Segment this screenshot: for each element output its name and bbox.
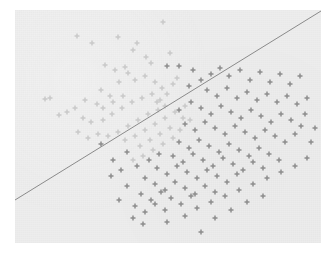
data-point (189, 100, 194, 105)
data-point (149, 61, 154, 66)
data-point (173, 180, 178, 185)
data-point (199, 106, 204, 111)
data-point (239, 116, 244, 121)
data-point (183, 186, 188, 191)
data-point (109, 174, 114, 179)
data-point (213, 126, 218, 131)
data-point (258, 70, 263, 75)
data-point (108, 94, 113, 99)
data-point (183, 214, 188, 219)
data-point (245, 200, 250, 205)
scatter-plot-figure (0, 0, 336, 263)
data-point (160, 86, 165, 91)
data-point (81, 116, 86, 121)
data-point (303, 112, 308, 117)
data-point (183, 104, 188, 109)
data-point (90, 41, 95, 46)
data-point (305, 96, 310, 101)
data-point (187, 84, 192, 89)
data-point (195, 206, 200, 211)
data-point (188, 118, 193, 123)
series-class-b (99, 64, 318, 235)
data-point (257, 146, 262, 151)
data-point (267, 152, 272, 157)
data-point (261, 194, 266, 199)
data-point (165, 64, 170, 69)
data-point (217, 150, 222, 155)
data-point (110, 112, 115, 117)
data-point (150, 92, 155, 97)
data-point (199, 230, 204, 235)
data-point (161, 20, 166, 25)
data-point (158, 132, 163, 137)
data-point (279, 112, 284, 117)
data-point (126, 124, 131, 129)
data-point (171, 154, 176, 159)
data-point (123, 65, 128, 70)
data-point (187, 146, 192, 151)
data-point (149, 198, 154, 203)
plot-area (15, 10, 321, 243)
data-point (229, 208, 234, 213)
data-point (298, 74, 303, 79)
data-point (163, 116, 168, 121)
data-point (293, 132, 298, 137)
data-point (223, 132, 228, 137)
data-point (288, 82, 293, 87)
data-point (165, 92, 170, 97)
data-point (177, 64, 182, 69)
data-point (255, 98, 260, 103)
data-point (231, 162, 236, 167)
data-point (144, 55, 149, 60)
data-point (227, 142, 232, 147)
data-point (289, 118, 294, 123)
data-point (261, 166, 266, 171)
data-point (101, 118, 106, 123)
data-point (191, 152, 196, 157)
data-point (148, 138, 153, 143)
data-point (213, 190, 218, 195)
data-point (251, 182, 256, 187)
data-point (193, 128, 198, 133)
data-point (171, 136, 176, 141)
data-point (268, 80, 273, 85)
data-point (95, 102, 100, 107)
data-point (123, 138, 128, 143)
data-point (215, 174, 220, 179)
data-point (163, 208, 168, 213)
data-point (136, 118, 141, 123)
data-point (143, 128, 148, 133)
data-point (233, 124, 238, 129)
data-point (249, 108, 254, 113)
data-point (125, 184, 130, 189)
data-point (153, 182, 158, 187)
data-point (138, 144, 143, 149)
decision-boundary-layer (15, 11, 321, 200)
data-point (245, 90, 250, 95)
data-point (133, 78, 138, 83)
data-point (201, 158, 206, 163)
data-point (135, 41, 140, 46)
data-point (111, 158, 116, 163)
data-point (133, 134, 138, 139)
data-point (168, 126, 173, 131)
data-point (285, 94, 290, 99)
data-point (253, 136, 258, 141)
data-point (169, 196, 174, 201)
data-point (143, 74, 148, 79)
data-point (197, 138, 202, 143)
data-point (147, 158, 152, 163)
data-point (116, 130, 121, 135)
data-point (265, 176, 270, 181)
data-point (225, 180, 230, 185)
data-point (48, 96, 53, 101)
data-point (140, 96, 145, 101)
data-point (211, 164, 216, 169)
data-point (146, 112, 151, 117)
data-point (86, 136, 91, 141)
data-point (76, 130, 81, 135)
data-point (313, 126, 318, 131)
data-point (207, 144, 212, 149)
data-point (175, 76, 180, 81)
data-point (121, 94, 126, 99)
